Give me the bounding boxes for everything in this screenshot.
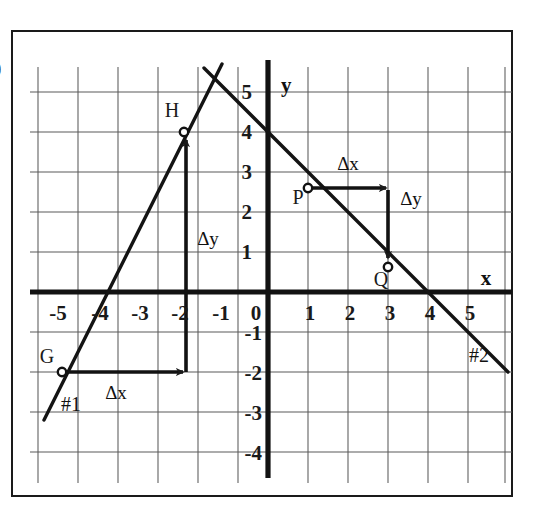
point-q-label: Q — [374, 268, 389, 290]
y-tick--3: -3 — [245, 401, 263, 425]
y-axis-label: y — [281, 73, 292, 97]
line-1 — [44, 64, 222, 420]
point-p-marker — [304, 184, 312, 192]
line-1-label: #1 — [61, 393, 81, 415]
point-p-label: P — [292, 186, 303, 208]
y-tick-labels: 5 4 3 2 1 -1 -2 -3 -4 — [242, 80, 263, 465]
x-tick--1: -1 — [212, 301, 230, 325]
y-tick--4: -4 — [245, 441, 263, 465]
line-2-label: #2 — [469, 344, 489, 366]
y-tick-1: 1 — [242, 240, 253, 264]
screenshot-root: ) — [0, 0, 551, 525]
delta-x-label-line1: Δx — [105, 382, 127, 403]
x-axis-label: x — [481, 266, 492, 290]
y-tick-3: 3 — [242, 160, 253, 184]
x-tick-3: 3 — [385, 301, 396, 325]
delta-x-label-line2: Δx — [337, 153, 359, 174]
axis-lines — [30, 60, 512, 478]
y-tick-4: 4 — [242, 120, 253, 144]
x-tick--2: -2 — [171, 301, 189, 325]
point-h-label: H — [165, 99, 179, 121]
x-tick-5: 5 — [465, 301, 476, 325]
y-tick--2: -2 — [245, 361, 263, 385]
point-g-marker — [58, 368, 66, 376]
y-tick-2: 2 — [242, 200, 253, 224]
x-tick-labels: -5 -4 -3 -2 -1 0 1 2 3 4 5 — [49, 301, 475, 325]
graph-svg: -5 -4 -3 -2 -1 0 1 2 3 4 5 5 4 3 2 1 -1 … — [0, 0, 551, 525]
x-tick-4: 4 — [425, 301, 436, 325]
delta-y-label-line1: Δy — [197, 228, 219, 249]
coordinate-graph: -5 -4 -3 -2 -1 0 1 2 3 4 5 5 4 3 2 1 -1 … — [0, 0, 551, 525]
point-g-label: G — [40, 345, 54, 367]
y-tick--1: -1 — [245, 321, 263, 345]
x-tick--4: -4 — [91, 301, 109, 325]
x-tick--3: -3 — [131, 301, 149, 325]
x-tick-1: 1 — [305, 301, 316, 325]
y-tick-5: 5 — [242, 80, 253, 104]
delta-y-label-line2: Δy — [400, 188, 422, 209]
point-h-marker — [180, 128, 188, 136]
x-tick--5: -5 — [49, 301, 67, 325]
x-tick-2: 2 — [345, 301, 356, 325]
grid-lines — [30, 67, 512, 483]
